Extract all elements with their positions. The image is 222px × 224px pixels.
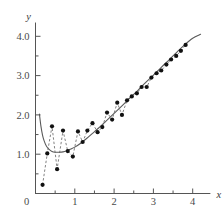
data-point-13 xyxy=(105,110,109,114)
y-tick-label-1: 2.0 xyxy=(16,110,29,121)
data-point-22 xyxy=(149,75,153,79)
data-point-24 xyxy=(159,68,163,72)
y-axis-label: y xyxy=(25,11,31,22)
x-axis-label: x xyxy=(215,189,221,200)
scatter-plot-svg: 012341.02.03.04.0xy xyxy=(0,0,222,224)
y-tick-label-0: 1.0 xyxy=(16,149,29,160)
data-point-8 xyxy=(81,140,85,144)
data-point-21 xyxy=(145,85,149,89)
data-point-7 xyxy=(76,129,80,133)
y-tick-label-2: 3.0 xyxy=(16,70,29,81)
data-point-29 xyxy=(184,43,188,47)
data-point-5 xyxy=(66,149,70,153)
data-point-0 xyxy=(40,183,44,187)
data-point-15 xyxy=(115,101,119,105)
data-point-11 xyxy=(95,130,99,134)
data-point-3 xyxy=(55,167,59,171)
data-point-20 xyxy=(140,85,144,89)
data-point-23 xyxy=(154,71,158,75)
data-point-14 xyxy=(110,118,114,122)
data-point-12 xyxy=(100,125,104,129)
data-point-25 xyxy=(164,63,168,67)
x-tick-label-4: 4 xyxy=(190,196,196,207)
data-point-28 xyxy=(179,49,183,53)
data-point-4 xyxy=(61,129,65,133)
y-tick-label-3: 4.0 xyxy=(16,31,29,42)
cropped-caption-text xyxy=(10,214,215,224)
x-tick-label-2: 2 xyxy=(111,196,116,207)
data-point-9 xyxy=(85,129,89,133)
data-dashed-line xyxy=(43,45,186,185)
x-tick-label-3: 3 xyxy=(151,196,156,207)
data-point-17 xyxy=(125,98,129,102)
figure-container: 012341.02.03.04.0xy xyxy=(0,0,222,224)
data-point-2 xyxy=(50,124,54,128)
data-point-1 xyxy=(45,151,49,155)
data-point-27 xyxy=(174,54,178,58)
x-tick-label-1: 1 xyxy=(72,196,77,207)
x-tick-label-0: 0 xyxy=(24,196,29,207)
cropped-header-text xyxy=(6,0,76,7)
data-point-10 xyxy=(90,121,94,125)
data-point-6 xyxy=(71,154,75,158)
data-point-26 xyxy=(169,57,173,61)
data-point-18 xyxy=(130,94,134,98)
data-point-16 xyxy=(120,113,124,117)
data-point-19 xyxy=(135,91,139,95)
